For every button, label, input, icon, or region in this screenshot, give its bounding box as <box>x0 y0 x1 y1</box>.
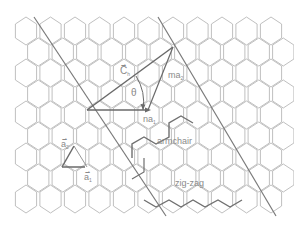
zigzag-label: zig-zag <box>175 179 204 188</box>
a1-label: ⇀a1 <box>84 173 92 183</box>
armchair-label: armchair <box>157 137 192 146</box>
na1-label: na1 <box>143 115 156 125</box>
theta-arc-arrowhead <box>141 104 146 110</box>
theta-label: θ <box>131 88 137 98</box>
ma2-label: ma2 <box>168 71 183 81</box>
a2-label: ⇀a2 <box>61 140 69 150</box>
graphene-diagram: ⇀Ch θ ma2 na1 ⇀a2 ⇀a1 armchair zig-zag <box>0 0 294 232</box>
chiral-vector-label: ⇀Ch <box>120 66 130 77</box>
